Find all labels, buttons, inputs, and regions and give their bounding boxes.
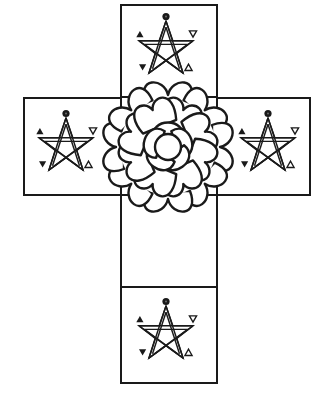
cross-diagram xyxy=(0,0,332,403)
rose-icon xyxy=(103,82,232,211)
